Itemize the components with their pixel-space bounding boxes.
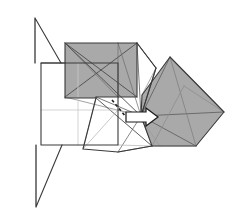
origami-diagram-root — [0, 0, 240, 224]
origami-figure — [0, 0, 240, 224]
